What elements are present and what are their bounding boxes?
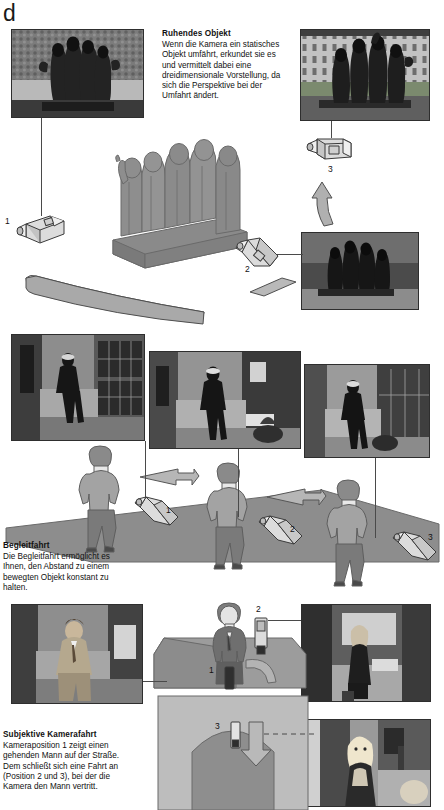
camera-icon-pos1 [222, 665, 238, 691]
leader-man-suit [143, 681, 167, 682]
arrow-motion-2 [265, 487, 327, 511]
illustration-sculpture [95, 122, 255, 282]
caption-begleitfahrt: Begleitfahrt Die Begleitfahrt ermöglicht… [3, 540, 129, 593]
camcorder-icon [234, 236, 286, 274]
camera-label-mid-1: 1 [166, 505, 171, 515]
caption-heading: Begleitfahrt [3, 540, 129, 551]
leader-shop-window [268, 620, 301, 621]
photo-alley-1 [11, 334, 145, 441]
curved-arrow-icon [18, 272, 208, 334]
walking-figure-2 [202, 461, 258, 569]
sculpture-group-illustration [95, 122, 255, 282]
caption-heading: Subjektive Kamerafahrt [3, 729, 133, 740]
photo-shop-window [301, 604, 431, 702]
arrow-flat-icon [248, 276, 298, 298]
camcorder-icon [14, 210, 68, 250]
camera-label-mid-2: 2 [290, 524, 295, 534]
walking-figure-3 [322, 478, 378, 586]
photo-alley-2 [149, 351, 301, 449]
camcorder-icon [392, 528, 444, 564]
curved-arrow-up-icon [308, 178, 344, 228]
caption-heading: Ruhendes Objekt [162, 28, 290, 39]
caption-body: Die Begleitfahrt ermöglicht es Ihnen, de… [3, 552, 129, 593]
leader-dashed-pos3 [264, 728, 316, 740]
photo-man-suit [11, 604, 143, 704]
camcorder-icon [134, 493, 186, 529]
camera-label-mid-3: 3 [428, 532, 433, 542]
photo-sculpture-mid [301, 232, 419, 310]
arrow-right-flat-icon [265, 487, 327, 511]
caption-subjektive-kamerafahrt: Subjektive Kamerafahrt Kameraposition 1 … [3, 729, 133, 792]
arrow-motion-1 [138, 467, 200, 491]
position-label-3: 3 [215, 721, 220, 731]
position-label-2: 2 [256, 604, 261, 614]
man-in-suit-street-photo [12, 605, 143, 704]
leader-alley-3 [375, 458, 376, 538]
leader-line-cam1 [41, 118, 42, 216]
camera-icon-mid-2 [258, 512, 310, 548]
statue-front-view-photo [12, 30, 144, 118]
statue-rear-view-photo [302, 233, 419, 310]
camcorder-icon [303, 133, 357, 167]
camera-icon-2 [234, 236, 286, 274]
page-corner-letter: d [3, 2, 16, 25]
caption-ruhendes-objekt: Ruhendes Objekt Wenn die Kamera ein stat… [162, 28, 290, 102]
person-walking-illustration [74, 444, 130, 552]
arrow-right-flat-icon [138, 467, 200, 491]
photo-sculpture-right [300, 29, 430, 121]
camera-label-2: 2 [245, 264, 250, 274]
camcorder-vertical-icon [250, 616, 272, 658]
arrow-small-cam2 [248, 276, 298, 298]
camera-icon-3 [303, 133, 357, 167]
photo-sculpture-left [11, 29, 144, 118]
camera-icon-mid-3 [392, 528, 444, 564]
woman-shop-window-photo [302, 605, 431, 702]
camera-label-1: 1 [5, 216, 10, 226]
photo-alley-3 [304, 364, 430, 458]
statue-side-view-photo [301, 30, 430, 121]
person-walking-illustration [322, 478, 378, 586]
leader-alley-1 [145, 441, 146, 497]
walking-figure-1 [74, 444, 130, 552]
position-label-1: 1 [209, 665, 214, 675]
caption-body: Kameraposition 1 zeigt einen gehenden Ma… [3, 741, 133, 792]
person-walking-illustration [202, 461, 258, 569]
camera-icon-pos2 [250, 616, 272, 658]
caption-body: Wenn die Kamera ein statisches Objekt um… [162, 40, 290, 102]
walking-man-alley-photo-3 [305, 365, 430, 458]
camera-icon-1 [14, 210, 68, 250]
walking-man-alley-photo-1 [12, 335, 145, 441]
arrow-orbit-small [308, 178, 344, 228]
camera-icon-mid-1 [134, 493, 186, 529]
leader-alley-2 [238, 449, 239, 517]
walking-man-alley-photo-2 [150, 352, 301, 449]
arrow-orbit-sweep [18, 272, 208, 334]
camcorder-icon [258, 512, 310, 548]
camera-label-3: 3 [328, 164, 333, 174]
camcorder-vertical-icon [222, 665, 238, 691]
